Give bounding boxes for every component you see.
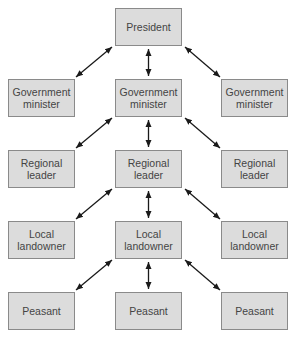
node-label: Peasant	[20, 305, 63, 317]
node-label: Regional leader	[116, 157, 181, 181]
node-label: Local landowner	[9, 228, 74, 252]
double-arrow-icon	[76, 47, 112, 77]
double-arrow-icon	[76, 260, 112, 290]
node-label: Local landowner	[222, 228, 287, 252]
node-pea-c: Peasant	[115, 292, 182, 330]
node-label: Regional leader	[9, 157, 74, 181]
node-label: Local landowner	[116, 228, 181, 252]
node-president: President	[115, 8, 182, 46]
node-gov-c: Government minister	[115, 79, 182, 117]
node-loc-l: Local landowner	[8, 221, 75, 259]
double-arrow-icon	[76, 189, 112, 219]
node-reg-c: Regional leader	[115, 150, 182, 188]
double-arrow-icon	[185, 189, 220, 219]
double-arrow-icon	[185, 47, 220, 77]
node-label: Government minister	[116, 86, 181, 110]
node-label: Government minister	[9, 86, 74, 110]
node-pea-r: Peasant	[221, 292, 288, 330]
node-label: Peasant	[233, 305, 276, 317]
node-label: Regional leader	[222, 157, 287, 181]
node-label: Peasant	[127, 305, 170, 317]
node-loc-r: Local landowner	[221, 221, 288, 259]
node-loc-c: Local landowner	[115, 221, 182, 259]
node-reg-r: Regional leader	[221, 150, 288, 188]
double-arrow-icon	[185, 118, 220, 148]
node-gov-l: Government minister	[8, 79, 75, 117]
node-label: President	[124, 21, 172, 33]
node-label: Government minister	[222, 86, 287, 110]
node-gov-r: Government minister	[221, 79, 288, 117]
node-pea-l: Peasant	[8, 292, 75, 330]
double-arrow-icon	[185, 260, 220, 290]
double-arrow-icon	[76, 118, 112, 148]
node-reg-l: Regional leader	[8, 150, 75, 188]
